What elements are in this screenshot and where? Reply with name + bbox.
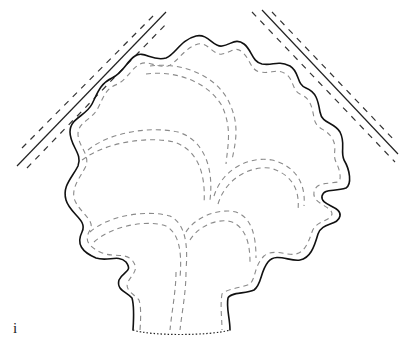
- base-dotted-line: [133, 330, 230, 335]
- inner-lobes: [82, 65, 304, 330]
- right-guide-lines: [252, 10, 398, 162]
- outer-outline: [65, 36, 350, 330]
- inner-offset-outline: [74, 44, 340, 330]
- figure-label: i: [13, 320, 17, 337]
- patent-drawing: [0, 0, 409, 361]
- left-guide-lines: [17, 12, 168, 168]
